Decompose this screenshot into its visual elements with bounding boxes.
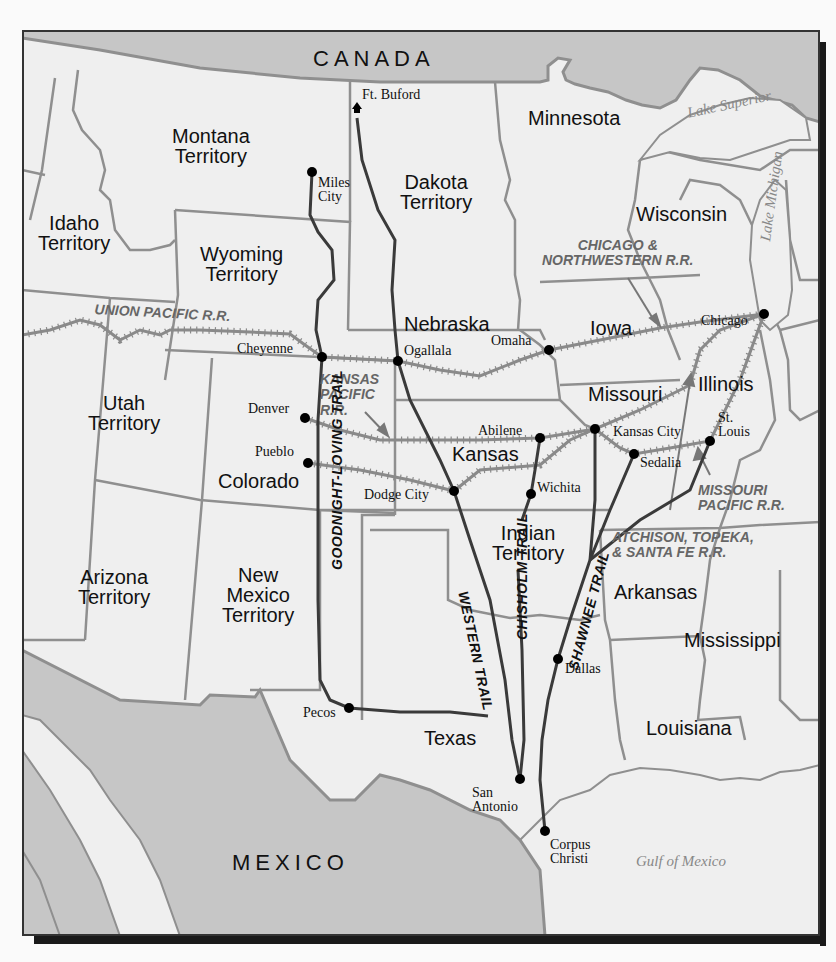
country-label-mexico: MEXICO — [232, 852, 349, 874]
city-label-miles-city: MilesCity — [318, 176, 350, 204]
city-label-line: Wichita — [537, 481, 581, 495]
region-label-line: Wisconsin — [636, 204, 727, 224]
city-dot-icon — [540, 826, 550, 836]
fort-marker-icon — [352, 102, 362, 109]
city-label-line: Sedalia — [640, 456, 681, 470]
city-dot-icon — [629, 449, 639, 459]
city-label-line: Miles — [318, 176, 350, 190]
city-label-line: Omaha — [491, 334, 531, 348]
city-dot-icon — [526, 489, 536, 499]
railroad-label-line: & SANTA FE R.R. — [612, 545, 754, 560]
region-label-line: Arkansas — [614, 582, 697, 602]
city-label-cheyenne: Cheyenne — [237, 342, 293, 356]
city-dot-icon — [317, 352, 327, 362]
railroad-label-missouri_pacific: MISSOURIPACIFIC R.R. — [698, 483, 785, 514]
city-dot-icon — [544, 345, 554, 355]
region-label-arizona: ArizonaTerritory — [78, 567, 150, 607]
region-label-line: Arizona — [78, 567, 150, 587]
region-label-arkansas: Arkansas — [614, 582, 697, 602]
railroad-label-line: CHICAGO & — [542, 238, 693, 253]
region-label-line: Texas — [424, 728, 476, 748]
city-label-line: Denver — [248, 402, 289, 416]
frame-shadow-bottom — [34, 936, 826, 944]
region-label-dakota: DakotaTerritory — [400, 172, 472, 212]
city-label-corpus-christi: CorpusChristi — [550, 838, 590, 866]
region-label-iowa: Iowa — [590, 318, 632, 338]
city-label-omaha: Omaha — [491, 334, 531, 348]
city-label-kansas-city: Kansas City — [613, 425, 681, 439]
region-label-colorado: Colorado — [218, 471, 299, 491]
railroad-label-line: MISSOURI — [698, 483, 785, 498]
region-label-mississippi: Mississippi — [684, 630, 781, 650]
city-label-line: Cheyenne — [237, 342, 293, 356]
city-label-line: Ogallala — [404, 344, 451, 358]
region-label-line: Dakota — [400, 172, 472, 192]
region-label-line: Kansas — [452, 444, 519, 464]
region-label-nebraska: Nebraska — [404, 314, 490, 334]
city-label-line: Pecos — [303, 706, 336, 720]
region-label-line: Territory — [88, 413, 160, 433]
trail-label-chisholm: CHISHOLM TRAIL — [515, 513, 529, 640]
city-dot-icon — [307, 167, 317, 177]
region-label-line: Minnesota — [528, 108, 620, 128]
city-dot-icon — [759, 309, 769, 319]
region-label-new_mexico: NewMexicoTerritory — [222, 565, 294, 625]
city-dot-icon — [344, 703, 354, 713]
trail-label-goodnight_loving: GOODNIGHT-LOVING TRAIL — [330, 370, 344, 570]
city-label-san-antonio: SanAntonio — [472, 786, 518, 814]
city-label-sedalia: Sedalia — [640, 456, 681, 470]
city-label-abilene: Abilene — [478, 424, 522, 438]
city-label-line: Antonio — [472, 800, 518, 814]
region-label-texas: Texas — [424, 728, 476, 748]
city-label-denver: Denver — [248, 402, 289, 416]
region-label-line: Louisiana — [646, 718, 732, 738]
city-label-st--louis: St.Louis — [718, 411, 750, 439]
city-label-ogallala: Ogallala — [404, 344, 451, 358]
region-label-missouri: Missouri — [588, 384, 662, 404]
city-label-chicago: Chicago — [701, 314, 748, 328]
region-label-line: Territory — [400, 192, 472, 212]
region-label-line: Mexico — [222, 585, 294, 605]
region-label-line: Iowa — [590, 318, 632, 338]
city-label-line: Corpus — [550, 838, 590, 852]
region-label-line: Territory — [172, 146, 250, 166]
region-label-line: Utah — [88, 393, 160, 413]
region-label-line: Wyoming — [200, 244, 283, 264]
water-label-gulf-of-mexico: Gulf of Mexico — [636, 854, 726, 869]
region-label-wyoming: WyomingTerritory — [200, 244, 283, 284]
country-label-canada: CANADA — [313, 48, 435, 70]
region-label-idaho: IdahoTerritory — [38, 213, 110, 253]
city-dot-icon — [535, 433, 545, 443]
city-label-line: Abilene — [478, 424, 522, 438]
frame-shadow-right — [820, 42, 826, 946]
city-label-pecos: Pecos — [303, 706, 336, 720]
railroad-label-atchison_topeka: ATCHISON, TOPEKA,& SANTA FE R.R. — [612, 530, 754, 561]
city-label-line: City — [318, 190, 350, 204]
railroad-label-line: PACIFIC R.R. — [698, 498, 785, 513]
region-label-montana: MontanaTerritory — [172, 126, 250, 166]
railroad-label-chicago_northwestern: CHICAGO &NORTHWESTERN R.R. — [542, 238, 693, 269]
city-dot-icon — [393, 356, 403, 366]
city-label-line: Pueblo — [255, 445, 294, 459]
city-dot-icon — [515, 774, 525, 784]
region-label-line: Colorado — [218, 471, 299, 491]
region-label-louisiana: Louisiana — [646, 718, 732, 738]
city-dot-icon — [553, 654, 563, 664]
city-label-line: Ft. Buford — [362, 88, 420, 102]
city-dot-icon — [300, 413, 310, 423]
city-dot-icon — [705, 436, 715, 446]
region-label-line: Idaho — [38, 213, 110, 233]
region-label-line: Territory — [200, 264, 283, 284]
city-label-ft--buford: Ft. Buford — [362, 88, 420, 102]
region-label-line: New — [222, 565, 294, 585]
city-label-line: Christi — [550, 852, 590, 866]
city-label-line: Louis — [718, 425, 750, 439]
city-dot-icon — [449, 486, 459, 496]
railroad-label-line: NORTHWESTERN R.R. — [542, 253, 693, 268]
region-label-line: Nebraska — [404, 314, 490, 334]
region-label-utah: UtahTerritory — [88, 393, 160, 433]
region-label-line: Montana — [172, 126, 250, 146]
region-label-line: Territory — [222, 605, 294, 625]
region-label-line: Missouri — [588, 384, 662, 404]
city-label-line: San — [472, 786, 518, 800]
